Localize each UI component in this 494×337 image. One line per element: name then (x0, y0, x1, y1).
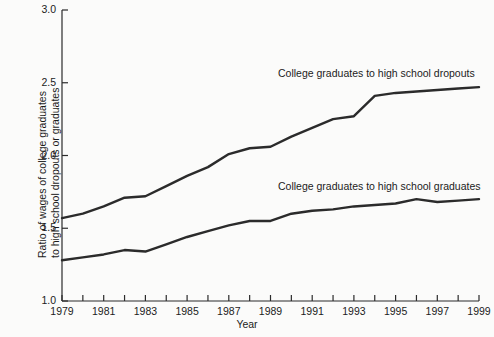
x-axis-tick-label: 1997 (415, 306, 459, 317)
x-axis-tick-label: 1987 (207, 306, 251, 317)
chart-figure: 1.01.52.02.53.0 197919811983198519871989… (0, 0, 494, 337)
x-axis-tick-label: 1991 (290, 306, 334, 317)
x-axis-tick-label: 1979 (40, 306, 84, 317)
x-axis-label: Year (0, 318, 494, 330)
x-axis-tick-label: 1981 (82, 306, 126, 317)
series-label-dropouts: College graduates to high school dropout… (278, 68, 475, 79)
data-series-line-graduates (62, 199, 479, 260)
axis-lines (62, 10, 479, 301)
x-axis-tick-label: 1983 (123, 306, 167, 317)
y-axis-label-line-2: to high school dropouts or graduates (50, 88, 61, 258)
data-series-group (62, 87, 479, 260)
x-axis-tick-label: 1985 (165, 306, 209, 317)
series-label-graduates: College graduates to high school graduat… (278, 181, 481, 192)
x-axis-tick-label: 1999 (457, 306, 494, 317)
chart-plot-area (0, 0, 494, 337)
x-axis-tick-label: 1995 (374, 306, 418, 317)
x-axis-tick-label: 1993 (332, 306, 376, 317)
x-axis-ticks (62, 295, 479, 301)
x-axis-tick-label: 1989 (249, 306, 293, 317)
y-axis-label-line-1: Ratio of wages of college graduates (37, 91, 48, 258)
y-axis-label: Ratio of wages of college graduates to h… (9, 0, 43, 337)
y-axis-ticks (62, 10, 68, 301)
